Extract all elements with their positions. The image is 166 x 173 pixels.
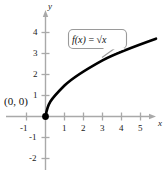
y-tick-label-1: 1	[33, 91, 38, 100]
x-axis-arrowhead	[149, 114, 156, 119]
x-tick-label-4: 4	[119, 124, 124, 133]
x-tick-label-1: 1	[62, 124, 67, 133]
origin-point-marker	[42, 113, 49, 120]
plot-canvas	[0, 0, 166, 173]
y-tick-label-3: 3	[33, 49, 38, 58]
y-tick-label-2: 2	[33, 70, 38, 79]
callout-radical-expression: √x	[97, 34, 107, 45]
function-curve-sqrt-x	[46, 39, 157, 117]
y-axis-arrowhead	[43, 10, 48, 17]
y-axis-name-label: y	[48, 2, 52, 11]
x-tick-label-3: 3	[100, 124, 105, 133]
x-tick-label-2: 2	[81, 124, 86, 133]
x-axis-name-label: x	[158, 119, 162, 128]
callout-equation-label: f(x) = √x	[72, 35, 106, 45]
y-tick-label-neg1: -1	[29, 133, 37, 142]
origin-coordinate-label: (0, 0)	[4, 96, 28, 107]
square-root-function-graph: f(x) = √x (0, 0) -1 1 2 3 4 5 4 3 2 1 -1…	[0, 0, 166, 173]
y-tick-label-neg2: -2	[29, 154, 37, 163]
x-tick-label-5: 5	[138, 124, 143, 133]
callout-function-name: f(x)	[72, 34, 86, 45]
y-tick-label-4: 4	[33, 28, 38, 37]
x-tick-label-neg1: -1	[20, 124, 28, 133]
callout-equals-sign: =	[86, 34, 97, 45]
